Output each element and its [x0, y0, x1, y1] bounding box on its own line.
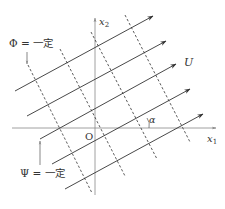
- streamline-arrow: [27, 41, 166, 116]
- x1-axis-label: x1: [207, 133, 217, 146]
- phi-label: Φ = 一定: [9, 37, 54, 49]
- streamline-arrow: [52, 89, 190, 164]
- psi-label: Ψ = 一定: [20, 167, 66, 179]
- flow-diagram: Φ = 一定 Ψ = 一定 U α O x1 x2: [0, 0, 225, 209]
- flow-velocity-label: U: [184, 56, 194, 69]
- origin-label: O: [85, 131, 93, 142]
- x2-axis-label: x2: [99, 16, 109, 29]
- streamline-arrow: [15, 16, 153, 91]
- streamline-arrow: [65, 114, 203, 189]
- angle-alpha-label: α: [149, 114, 156, 125]
- equipotential-line: [125, 15, 190, 142]
